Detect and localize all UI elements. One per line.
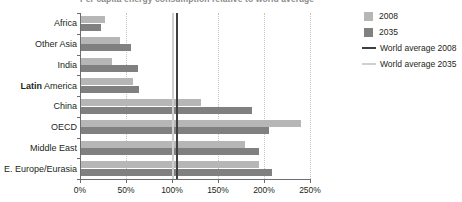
category-label: OECD — [3, 122, 77, 132]
bar — [81, 141, 245, 148]
category-tick — [77, 158, 81, 159]
x-axis-tick-label: 0% — [74, 185, 86, 195]
legend-line-icon — [362, 47, 376, 49]
category-label: Latin America — [3, 81, 77, 91]
reference-line — [172, 13, 174, 179]
gridline — [264, 13, 266, 179]
bar — [81, 86, 139, 93]
bar — [81, 65, 138, 72]
legend-line-icon — [362, 63, 376, 65]
category-tick — [77, 75, 81, 76]
x-axis-tick — [264, 179, 265, 183]
x-axis-tick-label: 100% — [161, 185, 183, 195]
legend-swatch-icon — [364, 28, 373, 37]
bar — [81, 78, 133, 85]
reference-line — [176, 13, 178, 179]
legend-item[interactable]: World average 2008 — [364, 40, 462, 56]
category-label: Middle East — [3, 143, 77, 153]
legend-item[interactable]: 2035 — [364, 24, 462, 40]
x-axis-tick — [172, 179, 173, 183]
x-axis-tick — [310, 179, 311, 183]
legend-label: World average 2008 — [380, 43, 456, 53]
legend-item[interactable]: World average 2035 — [364, 56, 462, 72]
x-axis-tick — [218, 179, 219, 183]
category-tick — [77, 96, 81, 97]
category-axis-labels: AfricaOther AsiaIndiaLatin AmericaChinaO… — [0, 13, 77, 179]
x-axis-tick — [80, 179, 81, 183]
category-tick — [77, 55, 81, 56]
category-label: Other Asia — [3, 39, 77, 49]
category-tick — [77, 138, 81, 139]
bar — [81, 161, 259, 168]
category-label: China — [3, 101, 77, 111]
category-tick — [77, 13, 81, 14]
gridline — [310, 13, 312, 179]
bar — [81, 99, 201, 106]
x-axis-tick-label: 200% — [253, 185, 275, 195]
bar — [81, 24, 101, 31]
bar — [81, 120, 301, 127]
bar — [81, 148, 259, 155]
legend-label: World average 2035 — [380, 59, 456, 69]
bar — [81, 16, 105, 23]
x-axis-tick-label: 150% — [207, 185, 229, 195]
plot-area: 0%50%100%150%200%250% — [80, 13, 310, 179]
category-label: India — [3, 60, 77, 70]
legend-label: 2035 — [379, 27, 398, 37]
bar — [81, 44, 131, 51]
x-axis-line — [80, 179, 310, 180]
bar — [81, 107, 252, 114]
category-tick — [77, 117, 81, 118]
chart-container: Per capita energy consumption relative t… — [0, 0, 462, 202]
chart-legend: 20082035World average 2008World average … — [364, 8, 462, 72]
category-label: E. Europe/Eurasia — [3, 164, 77, 174]
category-tick — [77, 34, 81, 35]
legend-swatch-icon — [364, 12, 373, 21]
x-axis-tick-label: 250% — [299, 185, 321, 195]
legend-item[interactable]: 2008 — [364, 8, 462, 24]
x-axis-tick — [126, 179, 127, 183]
legend-label: 2008 — [379, 11, 398, 21]
bar — [81, 58, 112, 65]
x-axis-tick-label: 50% — [117, 185, 134, 195]
chart-title: Per capita energy consumption relative t… — [80, 0, 330, 4]
bar — [81, 37, 120, 44]
bar — [81, 127, 269, 134]
category-label: Africa — [3, 18, 77, 28]
